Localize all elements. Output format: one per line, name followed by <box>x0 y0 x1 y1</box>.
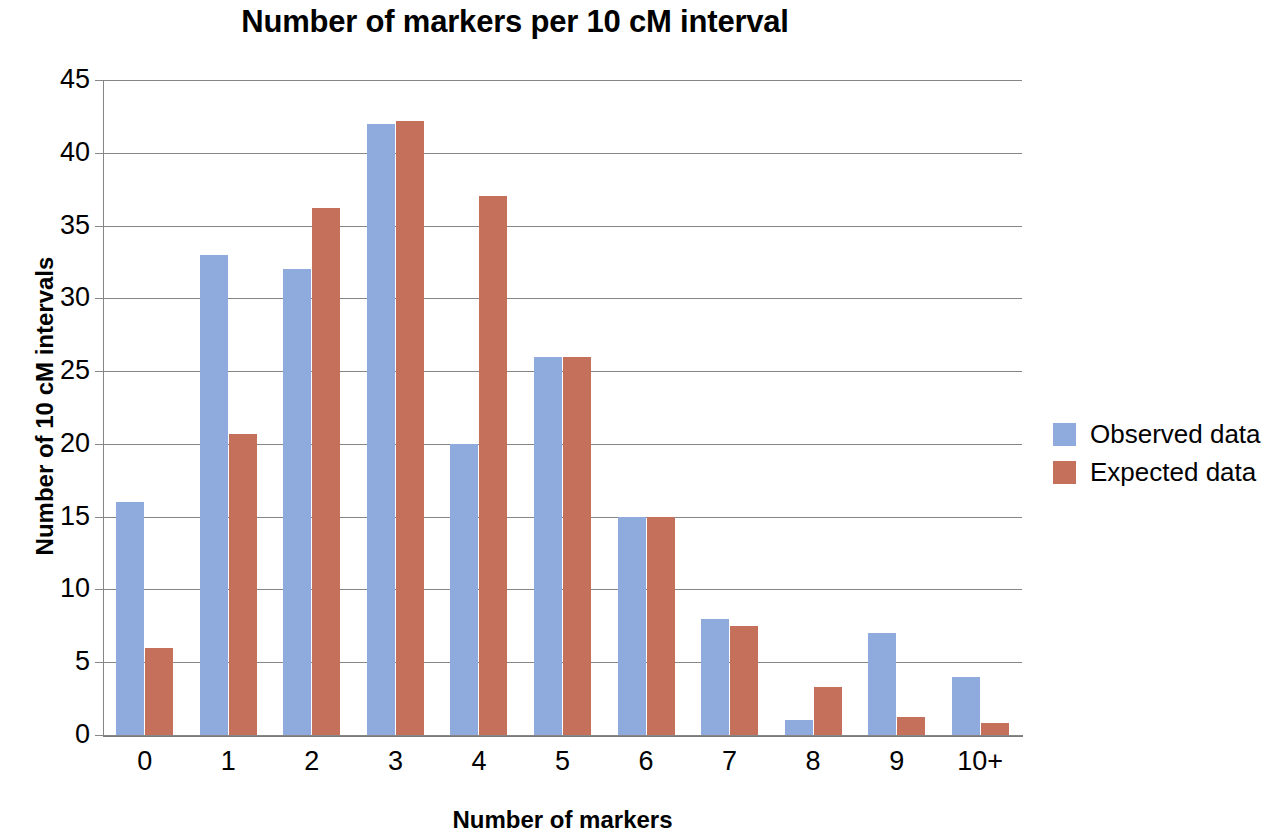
x-axis-tick-label: 3 <box>388 748 403 775</box>
y-axis-tick-label: 40 <box>4 139 90 166</box>
y-axis-tick-mark <box>95 298 103 299</box>
y-axis-tick-label: 15 <box>4 503 90 530</box>
bar-expected-data-5 <box>563 357 591 735</box>
y-axis-tick-label: 5 <box>4 648 90 675</box>
x-axis-tick-labels: 012345678910+ <box>103 748 1022 788</box>
y-axis-tick-label: 30 <box>4 284 90 311</box>
bar-expected-data-4 <box>479 196 507 735</box>
bar-expected-data-6 <box>647 517 675 735</box>
bar-observed-data-9 <box>868 633 896 735</box>
bar-expected-data-0 <box>145 648 173 735</box>
bar-expected-data-10plus <box>981 723 1009 735</box>
bars-layer <box>103 80 1022 735</box>
y-axis-tick-mark <box>95 226 103 227</box>
legend-label: Observed data <box>1090 419 1261 450</box>
legend-item-expected-data[interactable]: Expected data <box>1053 453 1278 491</box>
y-axis-tick-mark <box>95 153 103 154</box>
bar-expected-data-3 <box>396 121 424 735</box>
bar-expected-data-2 <box>312 208 340 735</box>
x-axis-tick-label: 0 <box>137 748 152 775</box>
y-axis-tick-mark <box>95 589 103 590</box>
y-axis-tick-label: 35 <box>4 212 90 239</box>
x-axis-tick-label: 4 <box>471 748 486 775</box>
y-axis-tick-label: 0 <box>4 721 90 748</box>
y-axis-tick-mark <box>95 80 103 81</box>
y-axis-tick-label: 10 <box>4 575 90 602</box>
bar-observed-data-7 <box>701 619 729 735</box>
bar-observed-data-10plus <box>952 677 980 735</box>
y-axis-tick-label: 20 <box>4 430 90 457</box>
bar-observed-data-3 <box>367 124 395 735</box>
y-axis-tick-mark <box>95 662 103 663</box>
x-axis-tick-label: 5 <box>555 748 570 775</box>
legend-item-observed-data[interactable]: Observed data <box>1053 415 1278 453</box>
y-axis-tick-label: 45 <box>4 66 90 93</box>
x-axis-tick-label: 7 <box>722 748 737 775</box>
x-axis-line <box>103 735 1023 737</box>
bar-expected-data-9 <box>897 717 925 735</box>
x-axis-tick-label: 6 <box>639 748 654 775</box>
y-axis-tick-mark <box>95 735 103 736</box>
y-axis-tick-mark <box>95 517 103 518</box>
plot-area <box>103 80 1022 735</box>
bar-observed-data-1 <box>200 255 228 735</box>
y-axis-tick-labels: 051015202530354045 <box>0 0 90 838</box>
bar-observed-data-4 <box>450 444 478 735</box>
x-axis-tick-label: 9 <box>889 748 904 775</box>
y-axis-tick-label: 25 <box>4 357 90 384</box>
bar-observed-data-2 <box>283 269 311 735</box>
x-axis-tick-label: 2 <box>304 748 319 775</box>
bar-expected-data-7 <box>730 626 758 735</box>
x-axis-tick-label: 8 <box>806 748 821 775</box>
legend-swatch-icon <box>1053 461 1076 484</box>
chart-title: Number of markers per 10 cM interval <box>0 4 1030 40</box>
x-axis-tick-label: 1 <box>221 748 236 775</box>
bar-expected-data-8 <box>814 687 842 735</box>
y-axis-tick-mark <box>95 371 103 372</box>
chart-legend: Observed dataExpected data <box>1053 415 1278 491</box>
bar-observed-data-5 <box>534 357 562 735</box>
bar-observed-data-0 <box>116 502 144 735</box>
legend-swatch-icon <box>1053 423 1076 446</box>
x-axis-title: Number of markers <box>103 806 1022 834</box>
bar-observed-data-8 <box>785 720 813 735</box>
legend-label: Expected data <box>1090 457 1256 488</box>
x-axis-tick-label: 10+ <box>957 748 1003 775</box>
bar-observed-data-6 <box>618 517 646 735</box>
y-axis-tick-mark <box>95 444 103 445</box>
bar-expected-data-1 <box>229 434 257 735</box>
